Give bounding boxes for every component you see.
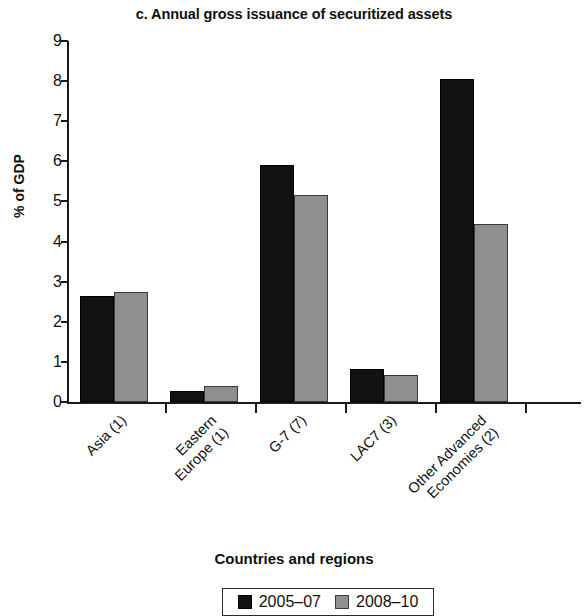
chart-figure: c. Annual gross issuance of securitized … <box>0 0 588 616</box>
y-tick-label-wrap: 8 <box>36 73 62 89</box>
bar-1-2 <box>294 195 328 402</box>
x-tick-mark <box>165 404 167 413</box>
y-tick-label: 7 <box>40 113 62 129</box>
x-tick-mark <box>345 404 347 413</box>
legend-entry-1: 2008–10 <box>335 594 418 610</box>
x-tick-mark <box>435 404 437 413</box>
x-category-label-line: Asia (1) <box>33 412 130 509</box>
legend-label-0: 2005–07 <box>259 594 321 610</box>
chart-legend: 2005–07 2008–10 <box>222 588 434 616</box>
y-tick-label-wrap: 6 <box>36 153 62 169</box>
y-tick-label: 8 <box>40 73 62 89</box>
x-axis-title: Countries and regions <box>0 550 588 567</box>
x-category-label: EasternEurope (1) <box>123 412 232 521</box>
bar-1-3 <box>384 375 418 402</box>
x-axis-line <box>67 402 581 404</box>
y-tick-label: 2 <box>40 314 62 330</box>
x-tick-mark <box>255 404 257 413</box>
x-category-label: G-7 (7) <box>213 412 310 509</box>
x-category-label-line: G-7 (7) <box>213 412 310 509</box>
bar-0-4 <box>440 79 474 402</box>
y-tick-label: 9 <box>40 33 62 49</box>
bar-1-4 <box>474 224 508 402</box>
y-tick-label: 1 <box>40 354 62 370</box>
x-category-label: Other AdvancedEconomies (2) <box>393 412 502 521</box>
black-square-swatch-icon <box>238 595 252 609</box>
y-tick-label: 5 <box>40 193 62 209</box>
y-tick-label-wrap: 4 <box>36 234 62 250</box>
y-tick-label-wrap: 9 <box>36 33 62 49</box>
y-tick-label-wrap: 7 <box>36 113 62 129</box>
y-tick-label-wrap: 3 <box>36 274 62 290</box>
y-tick-label: 3 <box>40 274 62 290</box>
y-tick-label-wrap: 1 <box>36 354 62 370</box>
y-tick-label-wrap: 5 <box>36 193 62 209</box>
y-tick-label-wrap: 2 <box>36 314 62 330</box>
y-tick-label: 6 <box>40 153 62 169</box>
bar-0-2 <box>260 165 294 402</box>
y-tick-label: 0 <box>40 394 62 410</box>
chart-title: c. Annual gross issuance of securitized … <box>0 6 588 22</box>
x-category-label: LAC7 (3) <box>303 412 400 509</box>
x-category-label-line: LAC7 (3) <box>303 412 400 509</box>
y-tick-label-wrap: 0 <box>36 394 62 410</box>
y-axis-title: % of GDP <box>11 131 27 241</box>
x-tick-mark <box>525 404 527 413</box>
bar-1-1 <box>204 386 238 402</box>
bar-0-1 <box>170 391 204 402</box>
bar-0-3 <box>350 369 384 402</box>
bar-1-0 <box>114 292 148 402</box>
bar-0-0 <box>80 296 114 402</box>
legend-entry-0: 2005–07 <box>238 594 321 610</box>
legend-label-1: 2008–10 <box>356 594 418 610</box>
y-axis-line <box>67 41 69 404</box>
y-tick-label: 4 <box>40 234 62 250</box>
x-category-label: Asia (1) <box>33 412 130 509</box>
gray-square-swatch-icon <box>335 595 349 609</box>
